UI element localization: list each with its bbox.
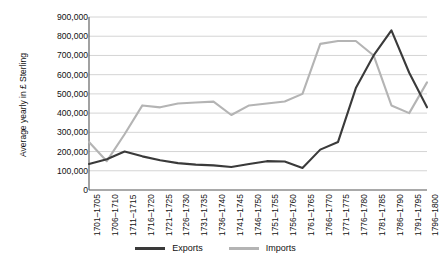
x-tick-label: 1796–1800 <box>430 194 440 236</box>
x-tick-label: 1706–1710 <box>110 194 120 236</box>
legend-label-imports: Imports <box>266 243 296 253</box>
x-tick-label: 1751–1755 <box>270 194 280 236</box>
x-tick-label: 1716–1720 <box>146 194 156 236</box>
chart-legend: Exports Imports <box>0 243 431 253</box>
legend-item-imports: Imports <box>229 243 296 253</box>
x-tick-label: 1701–1705 <box>92 194 102 236</box>
x-tick-label: 1741–1745 <box>235 194 245 236</box>
x-tick-label: 1766–1770 <box>324 194 334 236</box>
x-tick-label: 1756–1760 <box>288 194 298 236</box>
x-tick-label: 1746–1750 <box>253 194 263 236</box>
x-tick-label: 1791–1795 <box>413 194 423 236</box>
legend-item-exports: Exports <box>135 243 203 253</box>
x-tick-label: 1721–1725 <box>164 194 174 236</box>
x-tick-label: 1736–1740 <box>217 194 227 236</box>
x-tick-label: 1771–1775 <box>341 194 351 236</box>
x-tick-label: 1761–1765 <box>306 194 316 236</box>
legend-label-exports: Exports <box>172 243 203 253</box>
x-tick-label: 1781–1785 <box>377 194 387 236</box>
legend-swatch-imports <box>229 247 259 250</box>
x-tick-label: 1776–1780 <box>359 194 369 236</box>
legend-swatch-exports <box>135 247 165 250</box>
x-tick-label: 1731–1735 <box>199 194 209 236</box>
x-tick-label: 1726–1730 <box>181 194 191 236</box>
x-tick-label: 1711–1715 <box>128 195 138 236</box>
x-tick-label: 1786–1790 <box>395 194 405 236</box>
